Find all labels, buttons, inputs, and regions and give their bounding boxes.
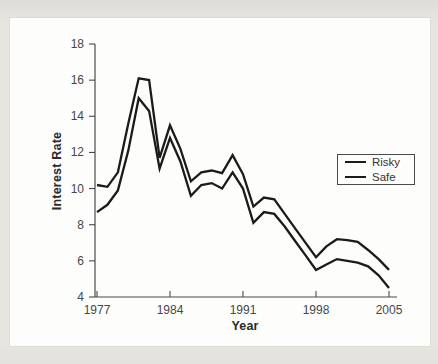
page-background: 468101214161819771984199119982005 Intere… [0,0,438,364]
x-tick-label: 1984 [157,303,184,317]
x-tick-label: 2005 [376,303,403,317]
y-tick-label: 4 [77,290,84,304]
y-tick-label: 18 [71,37,85,51]
legend-item-risky: Risky [345,156,414,169]
x-tick-label: 1998 [303,303,330,317]
y-axis-title: Interest Rate [50,96,64,246]
y-tick-label: 14 [71,109,85,123]
y-tick-label: 6 [77,254,84,268]
legend-item-safe: Safe [345,171,414,184]
risky-line-sample-icon [345,161,366,164]
y-tick-label: 12 [71,145,85,159]
y-tick-label: 10 [71,182,85,196]
legend: Risky Safe [337,154,415,185]
x-tick-label: 1977 [84,303,111,317]
y-tick-label: 8 [77,218,84,232]
legend-label-safe: Safe [372,171,396,184]
safe-line-sample-icon [345,176,366,179]
y-tick-label: 16 [71,73,85,87]
x-tick-label: 1991 [230,303,257,317]
x-axis-title: Year [170,319,320,333]
safe-series-line [97,98,389,288]
legend-label-risky: Risky [372,156,400,169]
chart-panel: 468101214161819771984199119982005 Intere… [10,18,430,346]
